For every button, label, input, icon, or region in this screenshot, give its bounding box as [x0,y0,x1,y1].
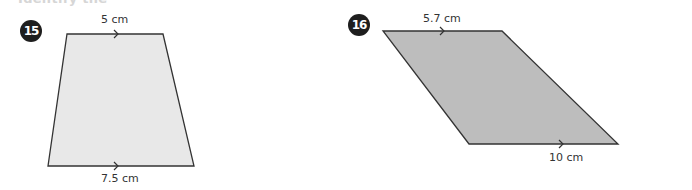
bottom-side-label-16: 10 cm [549,151,583,164]
trapezoid-figure-15 [0,0,692,190]
trapezoid-shape-16 [383,31,618,144]
trapezoid-shape [48,34,194,166]
top-side-label-15: 5 cm [101,13,128,26]
bottom-side-label-15: 7.5 cm [101,172,139,185]
problem-number-badge: 16 [348,14,370,36]
top-side-label-16: 5.7 cm [423,12,461,25]
